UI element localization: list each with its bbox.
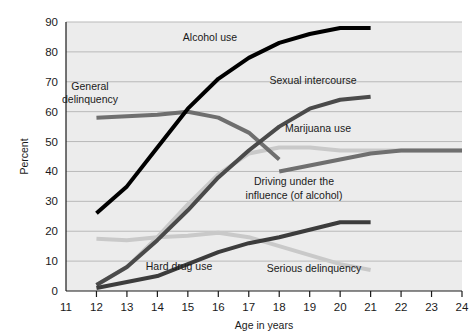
y-tick-label: 0 <box>52 285 58 297</box>
x-tick-label: 24 <box>456 301 469 313</box>
chart-container: 0102030405060708090111213141516171819202… <box>0 0 476 332</box>
x-tick-label: 14 <box>151 301 164 313</box>
plot-background <box>66 22 462 291</box>
x-tick-label: 11 <box>60 301 72 313</box>
x-tick-label: 22 <box>395 301 408 313</box>
x-tick-label: 21 <box>364 301 377 313</box>
series-label-alcohol-use: Alcohol use <box>183 31 237 43</box>
y-axis-title: Percent <box>18 138 30 174</box>
y-tick-label: 10 <box>45 255 58 267</box>
x-tick-label: 18 <box>273 301 286 313</box>
x-tick-label: 20 <box>334 301 347 313</box>
y-tick-label: 50 <box>45 136 58 148</box>
x-tick-label: 13 <box>121 301 134 313</box>
y-tick-label: 20 <box>45 225 58 237</box>
series-label-driving-under-the-influence-of-alcohol-line2: influence (of alcohol) <box>246 189 343 201</box>
y-tick-label: 90 <box>45 16 58 28</box>
x-tick-label: 12 <box>90 301 103 313</box>
series-label-sexual-intercourse: Sexual intercourse <box>270 74 357 86</box>
x-tick-label: 15 <box>181 301 194 313</box>
y-tick-label: 70 <box>45 76 58 88</box>
series-label-marijuana-use: Marijuana use <box>285 122 351 134</box>
series-label-hard-drug-use: Hard drug use <box>146 260 213 272</box>
y-tick-label: 60 <box>45 106 58 118</box>
series-label-general-delinquency: General <box>71 80 108 92</box>
series-label-serious-delinquency: Serious delinquency <box>267 262 362 274</box>
line-chart: 0102030405060708090111213141516171819202… <box>0 0 476 332</box>
x-tick-label: 16 <box>212 301 225 313</box>
y-tick-label: 80 <box>45 46 58 58</box>
x-tick-label: 17 <box>242 301 255 313</box>
x-tick-label: 23 <box>425 301 438 313</box>
y-tick-label: 40 <box>45 165 58 177</box>
x-tick-label: 19 <box>303 301 316 313</box>
series-label-general-delinquency-line2: delinquency <box>62 93 119 105</box>
y-tick-label: 30 <box>45 195 58 207</box>
x-axis-title: Age in years <box>235 319 293 331</box>
series-label-driving-under-the-influence-of-alcohol: Driving under the <box>254 175 334 187</box>
